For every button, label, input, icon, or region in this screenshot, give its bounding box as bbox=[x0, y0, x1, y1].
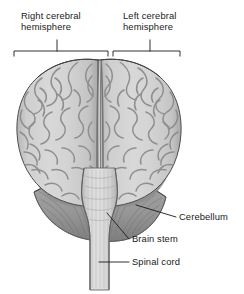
brain-anatomy-figure: Right cerebral hemisphere Left cerebral … bbox=[0, 0, 244, 294]
label-right-cerebral-hemisphere-line2: hemisphere bbox=[21, 21, 81, 32]
hemisphere-brackets bbox=[14, 40, 180, 56]
label-brain-stem: Brain stem bbox=[132, 233, 178, 244]
right-hemisphere-bracket bbox=[14, 40, 108, 56]
label-left-cerebral-hemisphere-line2: hemisphere bbox=[123, 21, 176, 32]
left-hemisphere-bracket bbox=[113, 40, 180, 56]
label-spinal-cord: Spinal cord bbox=[132, 256, 180, 267]
label-right-cerebral-hemisphere: Right cerebral hemisphere bbox=[21, 10, 81, 33]
label-cerebellum: Cerebellum bbox=[179, 211, 228, 222]
label-right-cerebral-hemisphere-line1: Right cerebral bbox=[21, 10, 81, 21]
label-left-cerebral-hemisphere-line1: Left cerebral bbox=[123, 10, 176, 21]
brain-diagram-svg bbox=[0, 0, 244, 294]
label-left-cerebral-hemisphere: Left cerebral hemisphere bbox=[123, 10, 176, 33]
